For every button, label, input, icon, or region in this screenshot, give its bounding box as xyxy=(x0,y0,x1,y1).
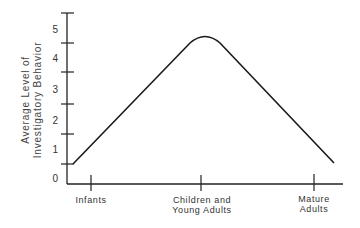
x-label-mature-line-2: Adults xyxy=(300,204,329,214)
x-label-children-line-1: Children and xyxy=(173,195,231,205)
y-tick-3: 3 xyxy=(52,84,58,95)
x-axis-ticks xyxy=(91,174,314,191)
y-tick-4: 4 xyxy=(52,53,58,64)
x-label-children-line-2: Young Adults xyxy=(172,205,231,215)
y-tick-2: 2 xyxy=(52,115,58,126)
y-axis-title-line-2: Investigatory Behavior xyxy=(32,42,43,159)
line-chart: Average Level of Investigatory Behavior … xyxy=(0,0,360,228)
data-line xyxy=(73,37,334,165)
y-axis-title-line-1: Average Level of xyxy=(20,56,31,144)
y-tick-5: 5 xyxy=(52,24,58,35)
y-axis-title: Average Level of Investigatory Behavior xyxy=(20,42,43,159)
y-tick-1: 1 xyxy=(52,144,58,155)
x-label-mature-line-1: Mature xyxy=(298,194,330,204)
y-tick-0: 0 xyxy=(52,173,58,184)
x-tick-labels: Infants Children and Young Adults Mature… xyxy=(75,194,329,215)
y-tick-labels: 0 1 2 3 4 5 xyxy=(52,24,58,184)
x-label-infants: Infants xyxy=(75,195,106,205)
